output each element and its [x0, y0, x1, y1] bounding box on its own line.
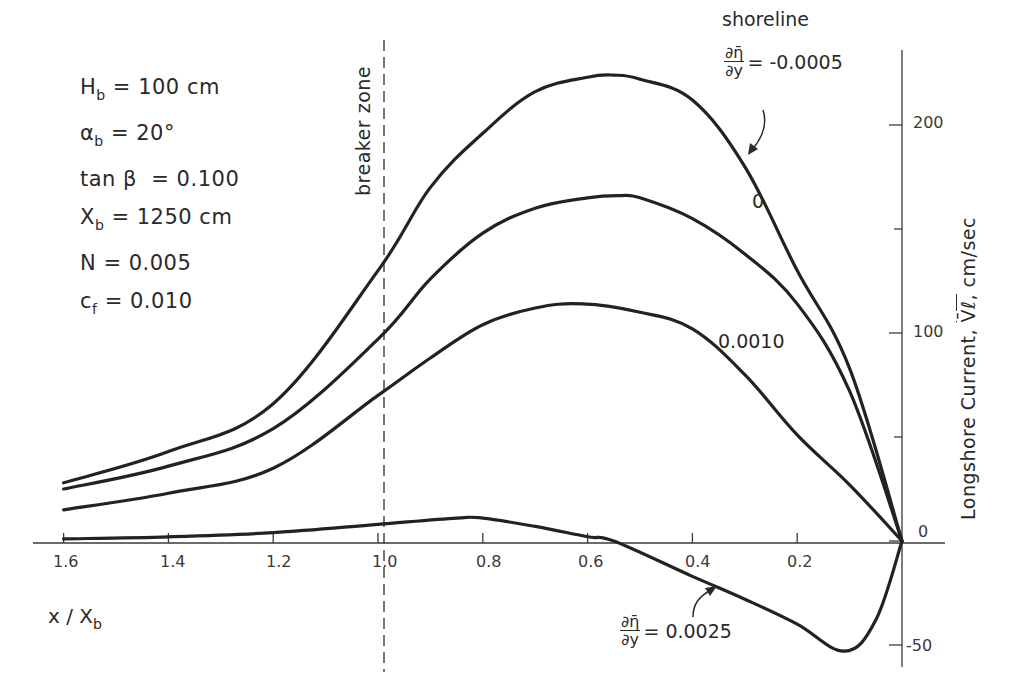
- param-value: = 0.010: [97, 289, 192, 313]
- arrow-top-curve: [752, 110, 765, 150]
- param-symbol: c: [80, 289, 92, 313]
- x-tick-label: 1.6: [53, 552, 78, 571]
- y-axis-symbol: V̄ℓ,: [957, 294, 979, 322]
- param-value: = 20°: [104, 121, 175, 145]
- y-tick-label: -50: [906, 636, 932, 655]
- x-tick-label: 1.2: [266, 552, 291, 571]
- x-tick-label: 0.4: [685, 552, 710, 571]
- label-curve-0025: ∂η̄∂y = 0.0025: [620, 613, 732, 648]
- arrowhead-bottom: [705, 586, 717, 596]
- param-value: = 0.100: [137, 167, 239, 191]
- fraction-denominator: ∂y: [725, 62, 743, 79]
- x-axis-title: x / Xb: [48, 604, 102, 632]
- param-symbol: tan β: [80, 167, 137, 191]
- x-tick-label: 0.8: [476, 552, 501, 571]
- param-sub: b: [96, 87, 105, 103]
- x-axis-title-text: x / X: [48, 604, 93, 628]
- derivative-fraction: ∂η̄∂y: [724, 44, 744, 79]
- label-curve-neg0005: ∂η̄∂y = -0.0005: [724, 44, 843, 79]
- param-value: = 100 cm: [106, 75, 220, 99]
- shoreline-label: shoreline: [722, 8, 809, 30]
- label-curve-0010: 0.0010: [718, 330, 784, 352]
- param-value: = 1250 cm: [104, 205, 232, 229]
- param-alpha: αb = 20°: [80, 114, 239, 160]
- breaker-zone-label: breaker zone: [352, 66, 374, 196]
- param-sub: b: [95, 217, 104, 233]
- y-tick-label: 200: [913, 113, 944, 132]
- param-symbol: X: [80, 205, 95, 229]
- y-axis-title: Longshore Current, V̄ℓ, cm/sec: [957, 217, 979, 520]
- param-hb: Hb = 100 cm: [80, 68, 239, 114]
- param-symbol: α: [80, 121, 94, 145]
- fraction-numerator: ∂η̄: [724, 44, 744, 62]
- y-axis-unit: cm/sec: [957, 217, 979, 287]
- parameter-list: Hb = 100 cm αb = 20° tan β = 0.100 Xb = …: [80, 68, 239, 328]
- derivative-fraction: ∂η̄∂y: [620, 613, 640, 648]
- param-cf: cf = 0.010: [80, 282, 239, 328]
- x-tick-label: 1.0: [372, 552, 397, 571]
- label-curve-zero: 0: [752, 190, 764, 212]
- x-tick-label: 1.4: [160, 552, 185, 571]
- x-tick-label: 0.6: [578, 552, 603, 571]
- y-tick-label: 100: [913, 322, 944, 341]
- param-sub: b: [94, 133, 103, 149]
- param-value: = 0.005: [96, 251, 191, 275]
- y-axis-title-text: Longshore Current,: [957, 329, 979, 520]
- y-tick-label: 0: [918, 522, 928, 541]
- x-tick-label: 0.2: [787, 552, 812, 571]
- param-symbol: H: [80, 75, 96, 99]
- param-symbol: N: [80, 251, 96, 275]
- fraction-numerator: ∂η̄: [620, 613, 640, 631]
- param-xb: Xb = 1250 cm: [80, 198, 239, 244]
- x-axis-title-sub: b: [93, 616, 102, 632]
- label-value: = 0.0025: [643, 620, 731, 642]
- param-n: N = 0.005: [80, 244, 239, 282]
- fraction-denominator: ∂y: [621, 631, 639, 648]
- param-tanbeta: tan β = 0.100: [80, 160, 239, 198]
- label-value: = -0.0005: [747, 51, 842, 73]
